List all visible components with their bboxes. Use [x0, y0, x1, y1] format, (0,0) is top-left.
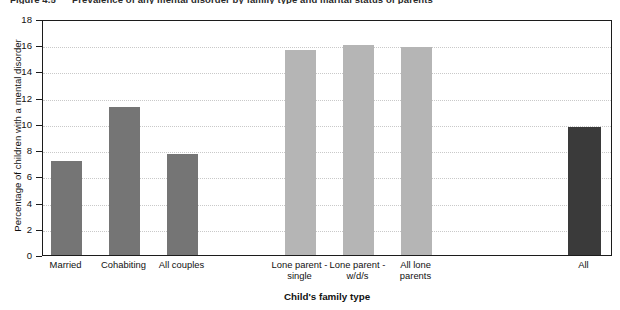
y-axis-tick-label: 6 [0, 172, 32, 182]
x-axis-tick-label-line1: All lone [376, 260, 456, 271]
gridline [43, 100, 611, 101]
plot-area [42, 20, 612, 256]
y-axis-tick-label: 14 [0, 67, 32, 77]
bar [51, 161, 82, 255]
y-axis-tick-label: 16 [0, 41, 32, 51]
x-axis-tick-label: All [544, 260, 620, 271]
y-axis-tick-label: 4 [0, 199, 32, 209]
y-axis-tick-label: 2 [0, 225, 32, 235]
gridline [43, 73, 611, 74]
x-axis-tick-label: All loneparents [376, 260, 456, 281]
x-axis-title: Child's family type [42, 291, 612, 302]
gridline [43, 47, 611, 48]
y-axis-tick-label: 18 [0, 15, 32, 25]
bar [109, 107, 140, 255]
x-axis-tick-label-line1: All [544, 260, 620, 271]
bar [401, 47, 432, 255]
y-axis-tick-label: 12 [0, 94, 32, 104]
bar [167, 154, 198, 255]
x-axis-tick-label-line1: All couples [142, 260, 222, 271]
bar [285, 50, 316, 255]
y-axis-tick-label: 10 [0, 120, 32, 130]
x-axis-tick-label: All couples [142, 260, 222, 271]
bar [343, 45, 374, 255]
y-axis-tick-label: 8 [0, 146, 32, 156]
bar [568, 127, 601, 255]
bar-chart: Percentage of children with a mental dis… [0, 0, 620, 310]
y-axis-tick [36, 256, 42, 257]
x-axis-tick-label-line2: parents [376, 271, 456, 282]
